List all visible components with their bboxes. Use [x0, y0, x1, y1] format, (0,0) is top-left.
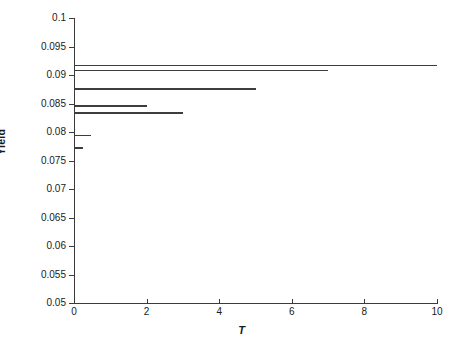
data-line-segment-1	[74, 65, 437, 67]
y-axis-label: Yield	[0, 129, 7, 155]
y-tick-label: 0.08	[47, 127, 66, 137]
y-tick-label: 0.085	[41, 99, 66, 109]
y-tick-label: 0.07	[47, 184, 66, 194]
x-tick-label: 10	[417, 307, 457, 317]
chart-figure: 0.050.0550.060.0650.070.0750.080.0850.09…	[0, 0, 467, 355]
data-line-segment-6	[74, 135, 91, 137]
data-line-segment-4	[74, 105, 147, 107]
x-tick-label: 6	[272, 307, 312, 317]
plot-area	[74, 18, 437, 303]
y-tick-label: 0.055	[41, 270, 66, 280]
x-axis-line	[74, 303, 438, 304]
y-tick-label: 0.075	[41, 156, 66, 166]
y-tick-label: 0.06	[47, 241, 66, 251]
data-line-segment-7	[74, 147, 83, 149]
x-tick-label: 0	[54, 307, 94, 317]
y-tick-label: 0.09	[47, 70, 66, 80]
x-axis-label-text: T	[238, 324, 245, 336]
y-tick-label: 0.095	[41, 42, 66, 52]
x-tick-mark	[437, 299, 438, 304]
x-tick-label: 2	[127, 307, 167, 317]
x-tick-label: 4	[199, 307, 239, 317]
y-tick-label: 0.1	[52, 13, 66, 23]
data-line-segment-3	[74, 88, 256, 90]
y-tick-label: 0.065	[41, 213, 66, 223]
x-axis-label: T	[0, 324, 467, 336]
data-line-segment-5	[74, 112, 183, 114]
x-tick-label: 8	[344, 307, 384, 317]
data-line-segment-2	[74, 70, 328, 72]
